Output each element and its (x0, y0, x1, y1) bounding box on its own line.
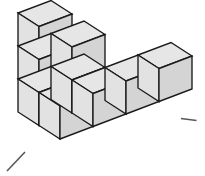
cube-base-4-right-end (138, 43, 192, 102)
cube-stack-svg: Isometric stack of unit cubes Axonometri… (0, 0, 205, 176)
isometric-cube-figure: Isometric stack of unit cubes Axonometri… (0, 0, 205, 176)
